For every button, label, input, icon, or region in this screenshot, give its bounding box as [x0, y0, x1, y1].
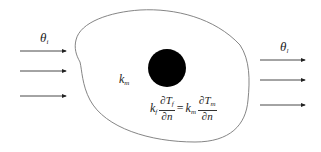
- interface-condition-equation: kf ∂Tf ∂n = km ∂Tm ∂n: [150, 95, 217, 122]
- inlet-theta-label: θi: [40, 30, 48, 46]
- diagram-canvas: [0, 0, 321, 152]
- outlet-arrows: [260, 60, 305, 105]
- matrix-conductivity-label: km: [119, 72, 129, 87]
- inclusion-particle: [148, 49, 186, 87]
- inlet-arrows: [20, 51, 66, 96]
- outlet-theta-label: θl: [280, 39, 288, 55]
